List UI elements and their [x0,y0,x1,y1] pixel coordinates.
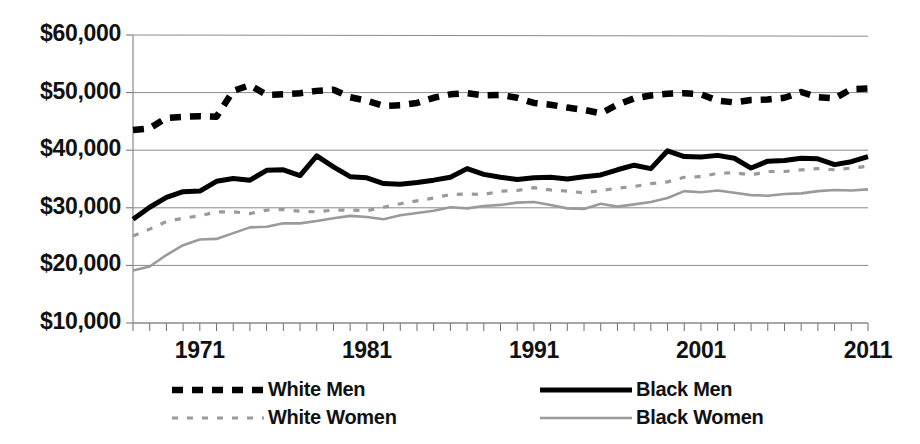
x-axis-tick-label: 1981 [342,337,392,363]
x-axis-tick-labels: 19711981199120012011 [175,337,893,363]
legend-label: Black Men [636,378,732,400]
y-axis-tick-label: $60,000 [40,20,121,46]
data-series [133,85,868,270]
legend-label: White Men [268,378,365,400]
legend-item-white-women[interactable]: White Women [172,406,397,428]
y-axis-tick-label: $40,000 [40,135,121,161]
y-axis-tick-labels: $10,000$20,000$30,000$40,000$50,000$60,0… [40,20,133,334]
y-axis-tick-label: $50,000 [40,78,121,104]
legend-item-white-men[interactable]: White Men [172,378,365,400]
legend-label: White Women [268,406,397,428]
legend-item-black-women[interactable]: Black Women [540,406,763,428]
series-line-black-men [133,151,868,220]
chart-legend: White MenBlack MenWhite WomenBlack Women [172,378,763,428]
x-axis-tick-label: 2001 [676,337,726,363]
y-axis-tick-label: $30,000 [40,193,121,219]
line-chart: $10,000$20,000$30,000$40,000$50,000$60,0… [0,0,920,444]
chart-container: $10,000$20,000$30,000$40,000$50,000$60,0… [0,0,920,444]
legend-label: Black Women [636,406,763,428]
x-axis-tick-label: 1971 [175,337,225,363]
series-line-black-women [133,189,868,270]
y-axis-tick-label: $10,000 [40,308,121,334]
series-line-white-men [133,85,868,130]
x-axis-tick-label: 2011 [844,337,893,363]
gridline [133,35,868,36]
y-axis-tick-label: $20,000 [40,250,121,276]
x-axis-tickmarks [133,323,868,331]
legend-item-black-men[interactable]: Black Men [540,378,732,400]
x-axis-tick-label: 1991 [509,337,559,363]
